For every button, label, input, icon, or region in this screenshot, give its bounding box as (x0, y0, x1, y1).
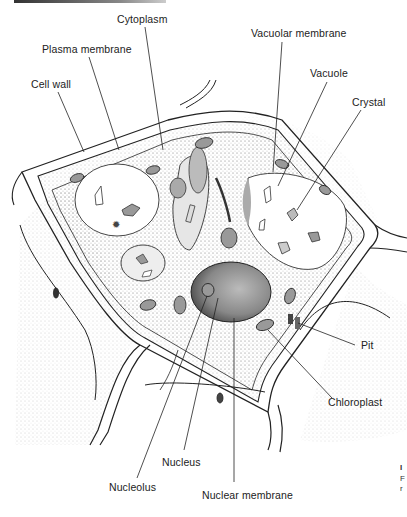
label-nucleolus: Nucleolus (109, 481, 156, 493)
label-vacuolar-membrane: Vacuolar membrane (251, 27, 346, 39)
edge-fragment-1: I (400, 463, 407, 472)
edge-fragment-3: r (400, 484, 407, 493)
label-vacuole: Vacuole (310, 67, 348, 79)
label-plasma-membrane: Plasma membrane (42, 43, 132, 55)
label-cell-wall: Cell wall (31, 78, 71, 90)
label-nuclear-membrane: Nuclear membrane (202, 489, 293, 501)
edge-fragment-2: F (400, 474, 407, 483)
label-crystal: Crystal (352, 96, 385, 108)
label-pit: Pit (361, 339, 374, 351)
svg-text:✹: ✹ (112, 219, 120, 230)
label-nucleus: Nucleus (162, 456, 201, 468)
label-cytoplasm: Cytoplasm (117, 13, 168, 25)
label-chloroplast: Chloroplast (328, 396, 382, 408)
